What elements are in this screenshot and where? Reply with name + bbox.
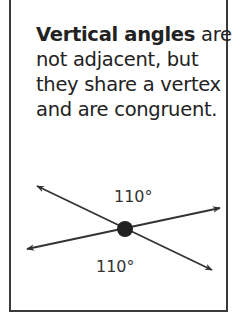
top-angle-label: 110° xyxy=(114,187,153,206)
vertical-angles-diagram: 110° 110° xyxy=(0,0,243,326)
bottom-angle-label: 110° xyxy=(96,257,135,276)
vertex-point xyxy=(117,221,133,237)
